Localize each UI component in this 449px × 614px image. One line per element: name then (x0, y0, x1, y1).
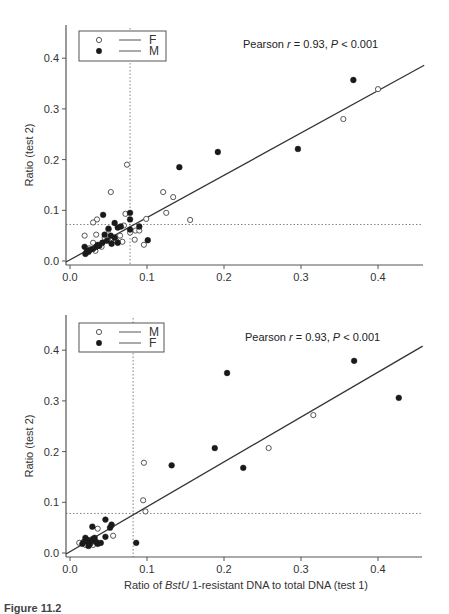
data-point-filled (127, 210, 133, 216)
x-axis-label: Ratio of BstU 1-resistant DNA to total D… (124, 579, 368, 591)
legend-marker-open-icon (96, 329, 101, 334)
data-point-open (117, 233, 122, 238)
data-point-filled (106, 226, 112, 232)
legend-label: F (149, 336, 156, 350)
data-point-open (124, 162, 129, 167)
data-point-filled (350, 77, 356, 83)
data-point-open (141, 498, 146, 503)
y-tick-label: 0.0 (44, 547, 59, 559)
data-point-open (91, 220, 96, 225)
data-point-open (94, 232, 99, 237)
data-point-filled (89, 524, 95, 530)
scatter-panel-1: 0.00.10.20.30.40.00.10.20.30.4Ratio (tes… (23, 25, 424, 283)
data-point-open (375, 87, 380, 92)
x-tick-label: 0.2 (216, 271, 231, 283)
legend-marker-filled-icon (96, 48, 102, 54)
data-point-filled (118, 224, 124, 230)
data-point-filled (103, 534, 109, 540)
data-point-filled (127, 227, 133, 233)
data-point-open (171, 195, 176, 200)
data-point-filled (224, 370, 230, 376)
x-tick-label: 0.4 (370, 271, 385, 283)
pearson-annotation: Pearson r = 0.93, P < 0.001 (245, 331, 380, 343)
y-tick-label: 0.4 (44, 52, 59, 64)
data-point-filled (145, 237, 151, 243)
y-tick-label: 0.1 (44, 204, 59, 216)
x-tick-label: 0.1 (139, 271, 154, 283)
data-point-open (108, 189, 113, 194)
data-point-filled (109, 522, 115, 528)
legend: FM (79, 31, 166, 61)
x-tick-label: 0.0 (62, 563, 77, 575)
data-point-open (95, 526, 100, 531)
x-tick-label: 0.1 (139, 563, 154, 575)
data-point-filled (295, 146, 301, 152)
y-axis-label: Ratio (test 2) (23, 124, 35, 187)
y-axis-label: Ratio (test 2) (23, 415, 35, 478)
data-point-open (341, 116, 346, 121)
data-point-open (164, 210, 169, 215)
y-tick-label: 0.2 (44, 154, 59, 166)
x-tick-label: 0.3 (293, 271, 308, 283)
data-point-filled (212, 445, 218, 451)
x-tick-label: 0.4 (370, 563, 385, 575)
data-point-filled (127, 217, 133, 223)
legend-label: M (149, 44, 159, 58)
data-point-open (143, 509, 148, 514)
series-M (82, 77, 357, 257)
data-point-filled (133, 540, 139, 546)
data-point-open (144, 216, 149, 221)
data-point-open (311, 412, 316, 417)
x-tick-label: 0.3 (293, 563, 308, 575)
data-point-filled (112, 235, 118, 241)
annot-r-value: = 0.93, (293, 331, 333, 343)
annot-prefix: Pearson (245, 331, 289, 343)
regression-line (66, 346, 423, 554)
annot-p-value: < 0.001 (340, 331, 380, 343)
data-point-filled (351, 358, 357, 364)
legend-marker-open-icon (96, 37, 101, 42)
data-point-filled (98, 540, 104, 546)
data-point-open (266, 445, 271, 450)
data-point-filled (100, 212, 106, 218)
legend-marker-filled-icon (96, 340, 102, 346)
regression-line (66, 65, 424, 262)
y-tick-label: 0.4 (44, 344, 59, 356)
data-point-filled (176, 164, 182, 170)
y-tick-label: 0.3 (44, 395, 59, 407)
data-point-open (141, 460, 146, 465)
x-axis-label-suffix: 1-resistant DNA to total DNA (test 1) (189, 579, 368, 591)
annot-prefix: Pearson (243, 38, 287, 50)
x-axis-label-italic: BstU (165, 579, 189, 591)
x-tick-label: 0.2 (216, 563, 231, 575)
data-point-filled (396, 395, 402, 401)
data-point-filled (104, 238, 110, 244)
y-tick-label: 0.0 (44, 255, 59, 267)
data-point-filled (102, 232, 108, 238)
data-point-filled (215, 149, 221, 155)
data-point-filled (86, 543, 92, 549)
data-point-filled (81, 539, 87, 545)
data-point-filled (115, 240, 121, 246)
data-point-filled (95, 242, 101, 248)
annot-p-value: < 0.001 (338, 38, 378, 50)
y-tick-label: 0.2 (44, 446, 59, 458)
pearson-annotation: Pearson r = 0.93, P < 0.001 (243, 38, 378, 50)
legend: MF (79, 323, 164, 352)
x-tick-label: 0.0 (62, 271, 77, 283)
data-point-open (111, 533, 116, 538)
data-point-filled (169, 462, 175, 468)
data-point-open (82, 233, 87, 238)
data-point-filled (136, 224, 142, 230)
figure-caption: Figure 11.2 (4, 602, 61, 614)
data-point-filled (82, 244, 88, 250)
scatter-panel-2: 0.00.10.20.30.40.00.10.20.30.4Ratio (tes… (23, 315, 423, 591)
x-axis-label-prefix: Ratio of (124, 579, 165, 591)
data-point-filled (240, 465, 246, 471)
data-point-open (141, 242, 146, 247)
data-point-open (188, 217, 193, 222)
data-point-filled (86, 249, 92, 255)
data-point-filled (103, 517, 109, 523)
y-tick-label: 0.1 (44, 496, 59, 508)
